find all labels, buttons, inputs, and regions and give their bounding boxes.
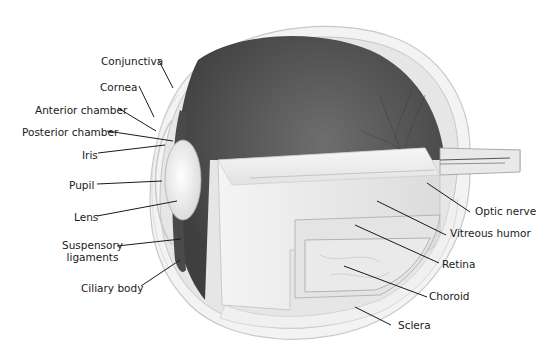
label-ciliary-body: Ciliary body [81, 282, 143, 294]
label-pupil: Pupil [69, 179, 94, 191]
label-conjunctiva: Conjunctiva [101, 55, 163, 67]
label-sclera: Sclera [398, 319, 431, 331]
label-suspensory-ligaments: Suspensory ligaments [62, 239, 123, 263]
label-iris: Iris [82, 149, 98, 161]
label-optic-nerve: Optic nerve [475, 205, 536, 217]
optic-nerve [440, 148, 520, 175]
label-cornea: Cornea [100, 81, 137, 93]
label-choroid: Choroid [429, 290, 470, 302]
lens [165, 140, 201, 220]
label-vitreous-humor: Vitreous humor [450, 227, 531, 239]
label-lens: Lens [74, 211, 98, 223]
label-retina: Retina [442, 258, 475, 270]
eye-cross-section-illustration [0, 0, 548, 356]
label-posterior-chamber: Posterior chamber [22, 126, 118, 138]
label-anterior-chamber: Anterior chamber [35, 104, 127, 116]
